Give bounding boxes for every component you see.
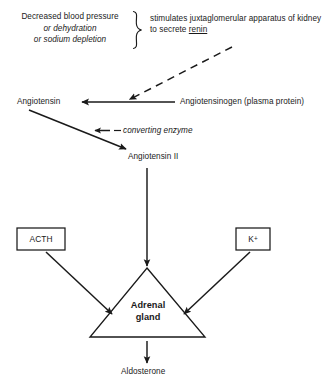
adrenal-gland-label: Adrenal gland bbox=[108, 300, 188, 323]
adrenal-gland-label-line-2: gland bbox=[108, 312, 188, 324]
trigger-brace-icon bbox=[134, 12, 142, 49]
renin-angiotensin-diagram: Decreased blood pressure or dehydration … bbox=[0, 0, 330, 386]
renin-secretion-text: stimulates juxtaglomerular apparatus of … bbox=[150, 13, 326, 35]
potassium-charge: + bbox=[254, 234, 258, 245]
adrenal-gland-label-line-1: Adrenal bbox=[108, 300, 188, 312]
potassium-label: K+ bbox=[236, 228, 270, 250]
trigger-line-2: or dehydration bbox=[6, 23, 134, 35]
angiotensin-label: Angiotensin bbox=[17, 97, 60, 108]
aldosterone-label: Aldosterone bbox=[121, 367, 165, 378]
trigger-line-1: Decreased blood pressure bbox=[6, 11, 134, 23]
arrow-angiotensin-to-angiotensin-ii bbox=[29, 110, 126, 149]
trigger-line-3: or sodium depletion bbox=[6, 34, 134, 46]
trigger-conditions-text: Decreased blood pressure or dehydration … bbox=[6, 11, 134, 46]
converting-enzyme-label: converting enzyme bbox=[123, 126, 193, 137]
angiotensin-ii-label: Angiotensin II bbox=[128, 152, 178, 163]
renin-keyword: renin bbox=[189, 25, 207, 34]
angiotensinogen-label: Angiotensinogen (plasma protein) bbox=[180, 97, 304, 108]
acth-label: ACTH bbox=[17, 228, 65, 250]
dashed-arrow-renin-to-angiotensin bbox=[130, 47, 233, 100]
arrow-potassium-to-adrenal-gland bbox=[184, 252, 250, 314]
renin-text-lead: stimulates juxtaglomerular apparatus of … bbox=[150, 14, 321, 34]
arrow-acth-to-adrenal-gland bbox=[46, 252, 112, 314]
diagram-vector-layer bbox=[0, 0, 330, 386]
